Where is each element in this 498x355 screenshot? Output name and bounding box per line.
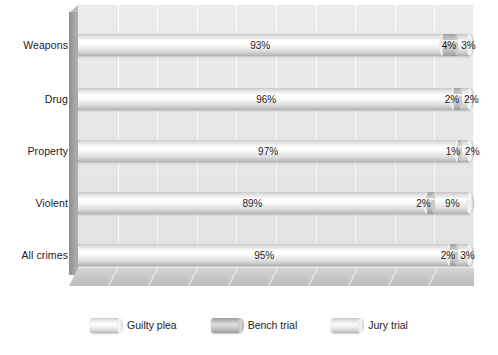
bar-segment-jury-trial[interactable]: 2% xyxy=(462,88,470,110)
bar-segment-bench-trial[interactable]: 2% xyxy=(454,88,462,110)
legend-label-bench-trial: Bench trial xyxy=(248,319,298,331)
stacked-bar-chart: Weapons Drug Property Violent All crimes… xyxy=(0,0,498,355)
bar-row[interactable]: 89% 2% 9% xyxy=(78,192,470,214)
bar-segment-guilty-plea[interactable]: 96% xyxy=(78,88,454,110)
bar-value-bench-trial: 1% xyxy=(446,146,460,157)
category-label-violent: Violent xyxy=(0,197,68,209)
bar-value-jury-trial: 3% xyxy=(460,250,474,261)
bar-value-guilty-plea: 95% xyxy=(254,250,274,261)
bar-value-bench-trial: 2% xyxy=(441,250,455,261)
legend-item-jury-trial[interactable]: Jury trial xyxy=(331,318,408,333)
bar-value-guilty-plea: 89% xyxy=(242,198,262,209)
bar-segment-guilty-plea[interactable]: 93% xyxy=(78,34,443,56)
bar-value-guilty-plea: 97% xyxy=(258,146,278,157)
legend-swatch-bench-trial-icon xyxy=(211,318,241,333)
bar-segment-guilty-plea[interactable]: 89% xyxy=(78,192,427,214)
legend-item-guilty-plea[interactable]: Guilty plea xyxy=(90,318,177,333)
bar-segment-jury-trial[interactable]: 3% xyxy=(458,34,470,56)
bar-value-jury-trial: 2% xyxy=(464,94,478,105)
bar-value-guilty-plea: 96% xyxy=(256,94,276,105)
bar-value-guilty-plea: 93% xyxy=(250,40,270,51)
bar-value-jury-trial: 2% xyxy=(465,146,479,157)
bar-segment-jury-trial[interactable]: 9% xyxy=(435,192,470,214)
category-label-allcrimes: All crimes xyxy=(0,249,68,261)
legend-item-bench-trial[interactable]: Bench trial xyxy=(211,318,298,333)
bar-segment-bench-trial[interactable]: 2% xyxy=(450,244,458,266)
bar-value-bench-trial: 2% xyxy=(416,198,430,209)
category-label-property: Property xyxy=(0,145,68,157)
bar-value-jury-trial: 9% xyxy=(445,198,459,209)
bar-row[interactable]: 95% 2% 3% xyxy=(78,244,470,266)
bar-segment-guilty-plea[interactable]: 97% xyxy=(78,140,458,162)
bar-segment-guilty-plea[interactable]: 95% xyxy=(78,244,450,266)
plot-left-wall xyxy=(69,12,78,275)
chart-legend: Guilty plea Bench trial Jury trial xyxy=(0,308,498,342)
bar-segment-bench-trial[interactable]: 2% xyxy=(427,192,435,214)
category-label-weapons: Weapons xyxy=(0,39,68,51)
legend-label-guilty-plea: Guilty plea xyxy=(127,319,177,331)
bar-segment-jury-trial[interactable]: 2% xyxy=(462,140,470,162)
bar-value-bench-trial: 2% xyxy=(445,94,459,105)
bar-row[interactable]: 97% 1% 2% xyxy=(78,140,470,162)
bar-segment-bench-trial[interactable]: 4% xyxy=(443,34,459,56)
legend-swatch-guilty-plea-icon xyxy=(90,318,120,333)
bar-value-jury-trial: 3% xyxy=(461,40,475,51)
legend-swatch-jury-trial-icon xyxy=(331,318,361,333)
bar-segment-jury-trial[interactable]: 3% xyxy=(458,244,470,266)
legend-label-jury-trial: Jury trial xyxy=(368,319,408,331)
category-label-drug: Drug xyxy=(0,93,68,105)
bar-row[interactable]: 96% 2% 2% xyxy=(78,88,470,110)
bar-row[interactable]: 93% 4% 3% xyxy=(78,34,470,56)
plot-floor xyxy=(69,268,474,286)
bar-value-bench-trial: 4% xyxy=(442,40,456,51)
